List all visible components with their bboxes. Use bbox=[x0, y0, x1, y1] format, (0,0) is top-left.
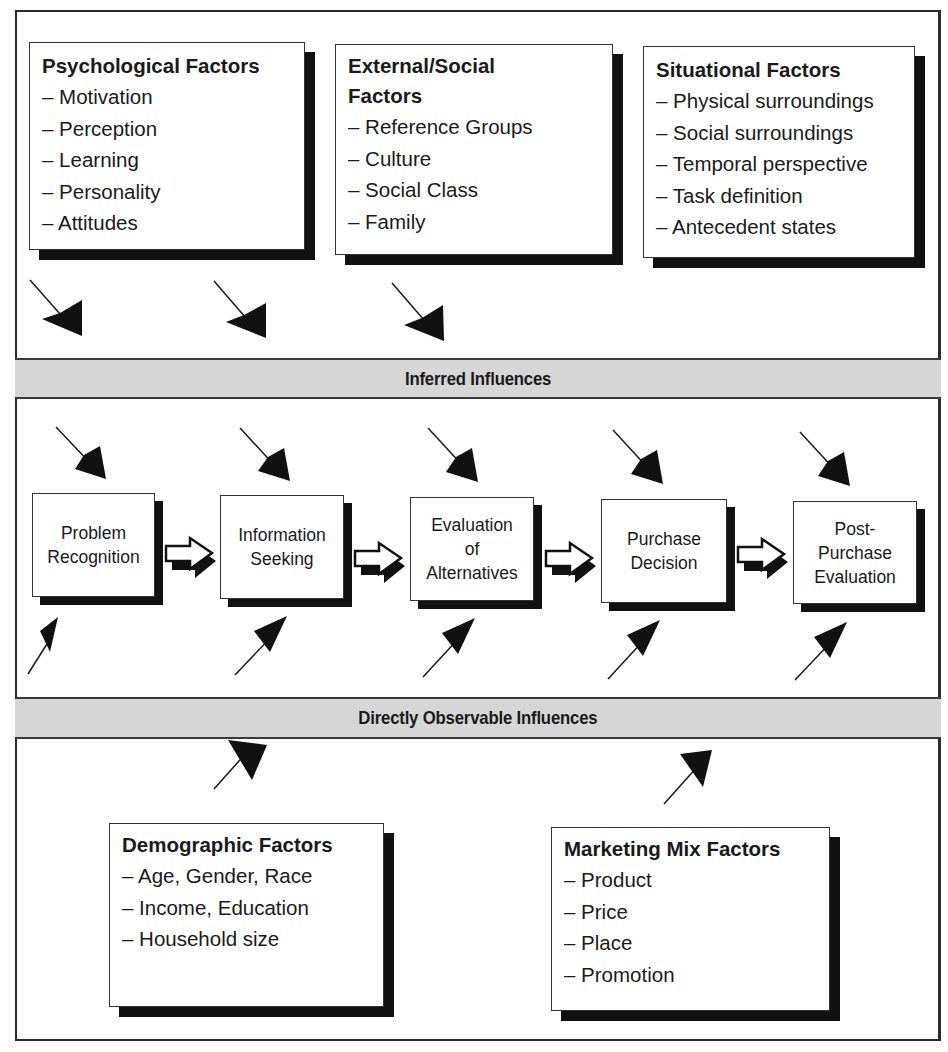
demographic-factors-box: Demographic Factors – Age, Gender, Race … bbox=[109, 823, 384, 1007]
situational-factors-box: Situational Factors – Physical surroundi… bbox=[643, 46, 915, 258]
external-social-factors-title-line2: Factors bbox=[348, 81, 602, 111]
step-label: Information Seeking bbox=[238, 523, 326, 571]
step-label: Problem Recognition bbox=[47, 521, 139, 569]
marketing-mix-factors-box: Marketing Mix Factors – Product – Price … bbox=[551, 827, 830, 1011]
factor-item: – Place bbox=[564, 927, 819, 959]
factor-item: – Learning bbox=[42, 144, 294, 176]
factor-item: – Culture bbox=[348, 143, 602, 175]
psychological-factors-title: Psychological Factors bbox=[42, 51, 294, 81]
factor-item: – Motivation bbox=[42, 81, 294, 113]
situational-factors-title: Situational Factors bbox=[656, 55, 904, 85]
step-information-seeking: Information Seeking bbox=[220, 495, 344, 599]
inferred-influences-band: Inferred Influences bbox=[15, 358, 941, 399]
factor-item: – Antecedent states bbox=[656, 211, 904, 243]
step-label: Purchase Decision bbox=[627, 527, 701, 575]
factor-item: – Reference Groups bbox=[348, 111, 602, 143]
directly-observable-influences-label: Directly Observable Influences bbox=[358, 707, 597, 729]
factor-item: – Household size bbox=[122, 923, 373, 955]
step-evaluation-of-alternatives: Evaluation of Alternatives bbox=[410, 497, 534, 601]
external-social-factors-title-line1: External/Social bbox=[348, 51, 602, 81]
factor-item: – Temporal perspective bbox=[656, 148, 904, 180]
step-label: Post- Purchase Evaluation bbox=[814, 517, 896, 589]
factor-item: – Age, Gender, Race bbox=[122, 860, 373, 892]
factor-item: – Promotion bbox=[564, 959, 819, 991]
factor-item: – Family bbox=[348, 206, 602, 238]
step-purchase-decision: Purchase Decision bbox=[601, 499, 727, 603]
step-problem-recognition: Problem Recognition bbox=[32, 493, 155, 597]
factor-item: – Product bbox=[564, 864, 819, 896]
factor-item: – Perception bbox=[42, 113, 294, 145]
step-post-purchase-evaluation: Post- Purchase Evaluation bbox=[793, 501, 917, 604]
directly-observable-influences-band: Directly Observable Influences bbox=[15, 697, 941, 739]
factor-item: – Personality bbox=[42, 176, 294, 208]
factor-item: – Attitudes bbox=[42, 207, 294, 239]
psychological-factors-box: Psychological Factors – Motivation – Per… bbox=[29, 42, 305, 250]
factor-item: – Price bbox=[564, 896, 819, 928]
step-label: Evaluation of Alternatives bbox=[426, 513, 517, 585]
demographic-factors-title: Demographic Factors bbox=[122, 830, 373, 860]
factor-item: – Task definition bbox=[656, 180, 904, 212]
factor-item: – Social Class bbox=[348, 174, 602, 206]
inferred-influences-label: Inferred Influences bbox=[405, 368, 551, 390]
factor-item: – Physical surroundings bbox=[656, 85, 904, 117]
external-social-factors-box: External/Social Factors – Reference Grou… bbox=[335, 44, 613, 255]
factor-item: – Social surroundings bbox=[656, 117, 904, 149]
factor-item: – Income, Education bbox=[122, 892, 373, 924]
marketing-mix-factors-title: Marketing Mix Factors bbox=[564, 834, 819, 864]
